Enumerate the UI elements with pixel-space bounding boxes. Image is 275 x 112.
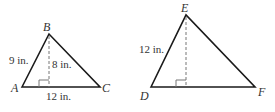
vertex-label-d: D: [139, 89, 149, 103]
triangle-def: E D F 12 in.: [139, 1, 266, 103]
similar-triangles-figure: B A C 9 in. 8 in. 12 in. E D F 12 in.: [0, 0, 275, 112]
vertex-label-f: F: [257, 85, 266, 99]
vertex-label-a: A: [10, 81, 19, 95]
side-ab-length: 9 in.: [9, 54, 29, 66]
right-angle-marker-def: [176, 80, 186, 87]
side-de-length: 12 in.: [139, 43, 164, 55]
vertex-label-c: C: [102, 81, 111, 95]
vertex-label-e: E: [180, 1, 189, 15]
right-angle-marker-abc: [39, 80, 49, 87]
base-ac-length: 12 in.: [46, 90, 71, 102]
triangle-abc: B A C 9 in. 8 in. 12 in.: [9, 20, 111, 102]
height-b-length: 8 in.: [52, 58, 72, 70]
triangle-def-outline: [151, 15, 255, 87]
vertex-label-b: B: [43, 20, 51, 34]
